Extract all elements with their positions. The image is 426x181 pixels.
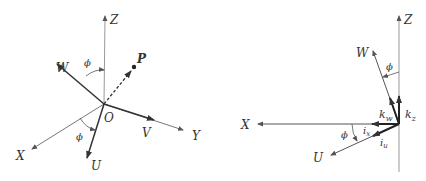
coordinate-diagram: Z W P ϕ O ϕ V Y X U Z W ϕ kw kz X ϕ ix [0, 0, 426, 181]
origin-label: O [104, 111, 114, 125]
w-label: W [56, 61, 70, 75]
u-vector [87, 104, 104, 158]
point-p-label: P [136, 52, 147, 66]
x-axis [32, 104, 104, 149]
z-axis [104, 16, 105, 104]
y-axis-label: Y [192, 129, 201, 143]
x-axis-label: X [240, 118, 250, 132]
u-label: U [91, 159, 102, 173]
z-axis-label: Z [109, 13, 119, 27]
angle-label-top: ϕ [84, 57, 91, 68]
angle-label-bottom: ϕ [76, 131, 83, 142]
angle-arc-top [383, 72, 399, 77]
z-axis-label: Z [403, 13, 413, 27]
k-w-label: kw [379, 108, 393, 123]
angle-label-bottom: ϕ [341, 129, 348, 140]
v-label: V [142, 126, 152, 140]
angle-label-top: ϕ [386, 61, 393, 72]
i-u-label: iu [380, 137, 388, 150]
x-axis-label: X [15, 149, 25, 163]
point-p-dot [132, 65, 136, 69]
i-u-unit-vector [373, 124, 399, 136]
i-x-label: ix [363, 125, 370, 138]
right-diagram: Z W ϕ kw kz X ϕ ix iu U [240, 13, 417, 172]
angle-arc-bottom [352, 124, 357, 141]
p-vector [104, 71, 131, 104]
u-label: U [313, 151, 324, 165]
w-label: W [356, 46, 370, 60]
angle-arc-bottom [80, 118, 95, 130]
left-diagram: Z W P ϕ O ϕ V Y X U [15, 13, 201, 173]
angle-arc-top [86, 70, 104, 76]
k-z-label: kz [405, 108, 417, 123]
